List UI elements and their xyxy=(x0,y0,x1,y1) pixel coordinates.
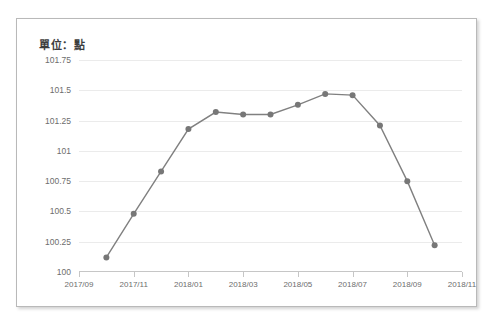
data-point-marker[interactable] xyxy=(350,92,356,98)
y-axis-tick-label: 100.25 xyxy=(45,237,71,247)
y-axis-tick-label: 100.75 xyxy=(45,176,71,186)
data-point-marker[interactable] xyxy=(295,102,301,108)
x-axis-tick-label: 2018/03 xyxy=(229,280,258,289)
x-axis-tick-label: 2017/09 xyxy=(65,280,94,289)
x-axis-tick-mark xyxy=(188,272,189,277)
x-axis-tick-mark xyxy=(243,272,244,277)
x-axis-tick-label: 2018/01 xyxy=(174,280,203,289)
x-axis-tick-mark xyxy=(407,272,408,277)
data-point-marker[interactable] xyxy=(103,254,109,260)
x-axis-tick-label: 2018/09 xyxy=(393,280,422,289)
data-point-marker[interactable] xyxy=(185,126,191,132)
data-point-marker[interactable] xyxy=(158,168,164,174)
data-point-marker[interactable] xyxy=(240,112,246,118)
y-axis-tick-label: 101 xyxy=(57,146,71,156)
screenshot-root: 單位：點 100100.25100.5100.75101101.25101.51… xyxy=(0,0,495,324)
x-axis-tick-mark xyxy=(353,272,354,277)
data-point-marker[interactable] xyxy=(131,211,137,217)
x-axis-tick-label: 2018/07 xyxy=(338,280,367,289)
plot-area: 100100.25100.5100.75101101.25101.5101.75… xyxy=(79,60,462,272)
y-axis-tick-label: 101.75 xyxy=(45,55,71,65)
y-axis-tick-label: 101.25 xyxy=(45,116,71,126)
x-axis-tick-label: 2017/11 xyxy=(120,280,148,289)
data-point-marker[interactable] xyxy=(432,242,438,248)
data-point-marker[interactable] xyxy=(213,109,219,115)
line-series xyxy=(79,60,462,272)
series-line xyxy=(106,94,434,258)
y-axis-tick-label: 100 xyxy=(57,267,71,277)
data-point-marker[interactable] xyxy=(322,91,328,97)
data-point-marker[interactable] xyxy=(377,122,383,128)
data-point-marker[interactable] xyxy=(404,178,410,184)
x-axis-tick-mark xyxy=(134,272,135,277)
x-axis-tick-label: 2018/11 xyxy=(448,280,476,289)
unit-title: 單位：點 xyxy=(39,36,85,52)
y-axis-tick-label: 101.5 xyxy=(50,85,71,95)
x-axis-tick-mark xyxy=(79,272,80,277)
chart-card: 單位：點 100100.25100.5100.75101101.25101.51… xyxy=(16,18,477,307)
x-axis-tick-mark xyxy=(298,272,299,277)
data-point-marker[interactable] xyxy=(268,112,274,118)
x-axis-tick-label: 2018/05 xyxy=(283,280,312,289)
y-axis-tick-label: 100.5 xyxy=(50,206,71,216)
x-axis-tick-mark xyxy=(462,272,463,277)
